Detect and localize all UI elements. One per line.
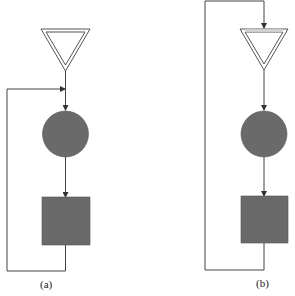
triangle-b (240, 29, 288, 70)
caption-a: (a) (40, 278, 52, 290)
square-a (42, 197, 90, 245)
caption-b: (b) (256, 277, 269, 289)
diagram-canvas (0, 0, 295, 296)
circle-a (43, 111, 89, 157)
triangle-a (41, 29, 90, 71)
diagram-a (7, 29, 90, 271)
square-b (241, 196, 288, 243)
circle-b (241, 111, 287, 157)
diagram-b (205, 1, 288, 270)
